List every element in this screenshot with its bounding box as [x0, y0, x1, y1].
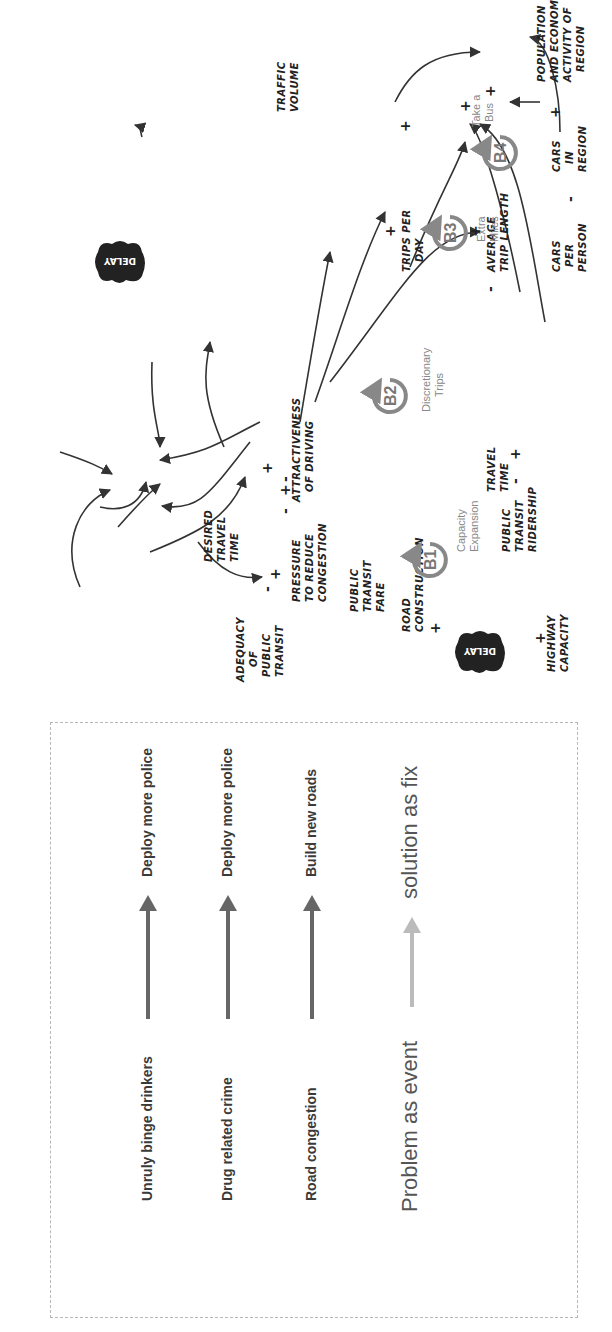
svg-text:B3: B3 — [442, 222, 459, 243]
svg-text:TRIP LENGTH: TRIP LENGTH — [499, 193, 510, 272]
svg-text:REGION: REGION — [577, 126, 588, 172]
svg-text:PRESSURE: PRESSURE — [291, 539, 302, 602]
svg-text:B1: B1 — [422, 549, 439, 570]
svg-text:-: - — [277, 508, 293, 514]
svg-text:DESIRED: DESIRED — [203, 510, 214, 562]
svg-text:RIDERSHIP: RIDERSHIP — [527, 486, 538, 552]
arrow-icon — [146, 895, 150, 1019]
svg-text:CONGESTION: CONGESTION — [317, 523, 328, 602]
svg-text:+: + — [467, 225, 483, 237]
svg-text:+: + — [457, 100, 473, 112]
light-arrow-icon — [410, 917, 414, 1007]
svg-text:FARE: FARE — [375, 582, 386, 612]
svg-text:PUBLIC: PUBLIC — [261, 633, 272, 677]
svg-text:+: + — [267, 568, 283, 580]
delay-cloud-2: DELAY — [95, 241, 145, 283]
svg-text:OF DRIVING: OF DRIVING — [304, 420, 315, 492]
svg-text:+: + — [482, 85, 498, 97]
node-traffic-volume: TRAFFIC VOLUME — [276, 61, 300, 112]
svg-text:TRAVEL: TRAVEL — [216, 516, 227, 562]
svg-text:+: + — [277, 484, 293, 496]
svg-text:PERSON: PERSON — [577, 223, 588, 272]
svg-text:-: - — [259, 586, 275, 592]
svg-text:-: - — [562, 196, 578, 202]
svg-text:TRAFFIC: TRAFFIC — [276, 61, 287, 112]
svg-text:ROAD: ROAD — [401, 598, 412, 632]
fix-label: Deploy more police — [139, 748, 155, 877]
svg-text:Trips: Trips — [433, 372, 445, 397]
svg-text:PER: PER — [564, 244, 575, 267]
svg-text:TIME: TIME — [229, 533, 240, 562]
svg-text:PUBLIC: PUBLIC — [501, 508, 512, 552]
arrow-icon — [310, 895, 314, 1019]
svg-text:TRANSIT: TRANSIT — [362, 559, 373, 612]
svg-text:PUBLIC: PUBLIC — [349, 568, 360, 612]
problem-label: Unruly binge drinkers — [139, 1056, 155, 1201]
svg-text:POPULATION: POPULATION — [536, 5, 547, 82]
svg-text:Bus: Bus — [483, 103, 495, 122]
svg-text:+: + — [547, 106, 563, 118]
solution-as-fix-label: solution as fix — [397, 766, 423, 899]
svg-text:TRIPS PER: TRIPS PER — [401, 209, 412, 272]
svg-text:DELAY: DELAY — [104, 256, 136, 266]
svg-text:Capacity: Capacity — [455, 509, 467, 552]
node-population-economic-activity: POPULATION AND ECONOMIC ACTIVITY OF REGI… — [536, 0, 586, 83]
node-attractiveness-of-driving: ATTRACTIVENESS OF DRIVING — [291, 398, 315, 504]
svg-text:Discretionary: Discretionary — [420, 347, 432, 412]
loop-b4: B4 Take a Bus — [470, 94, 516, 169]
svg-text:CARS: CARS — [551, 240, 562, 272]
svg-text:Miles: Miles — [488, 216, 500, 242]
legend-box: Unruly binge drinkers Deploy more police… — [50, 722, 578, 1318]
svg-text:AND ECONOMIC: AND ECONOMIC — [549, 0, 560, 83]
loop-b2: B2 Discretionary Trips — [374, 347, 445, 412]
svg-text:+: + — [382, 225, 398, 237]
svg-text:OF: OF — [248, 651, 259, 667]
svg-text:TRANSIT: TRANSIT — [514, 499, 525, 552]
svg-text:+: + — [427, 622, 443, 634]
node-adequacy-of-public-transit: ADEQUACY OF PUBLIC TRANSIT — [235, 616, 285, 683]
svg-text:B2: B2 — [382, 385, 399, 406]
svg-text:CAPACITY: CAPACITY — [559, 613, 570, 672]
svg-text:DELAY: DELAY — [464, 646, 496, 656]
svg-text:+: + — [507, 448, 523, 460]
node-public-transit-fare: PUBLIC TRANSIT FARE — [349, 559, 386, 612]
node-public-transit-ridership: PUBLIC TRANSIT RIDERSHIP — [501, 486, 538, 552]
svg-text:ADEQUACY: ADEQUACY — [235, 616, 246, 683]
svg-text:ACTIVITY OF: ACTIVITY OF — [562, 7, 573, 83]
problem-label: Road congestion — [303, 1087, 319, 1201]
node-pressure-to-reduce-congestion: PRESSURE TO REDUCE CONGESTION — [291, 523, 328, 602]
svg-text:TRAVEL: TRAVEL — [486, 446, 497, 492]
svg-text:DAY: DAY — [414, 237, 425, 262]
svg-text:Expansion: Expansion — [468, 501, 480, 552]
arrow-icon — [226, 895, 230, 1019]
causal-loop-diagram: DELAY DELAY HIGHWAY CAPACITY ROAD CONSTR… — [0, 0, 612, 692]
problem-as-event-label: Problem as event — [397, 1041, 423, 1212]
node-cars-per-person: CARS PER PERSON — [551, 223, 588, 272]
rotated-page: Unruly binge drinkers Deploy more police… — [0, 0, 612, 1332]
node-desired-travel-time: DESIRED TRAVEL TIME — [203, 510, 240, 562]
svg-text:REGION: REGION — [575, 26, 586, 72]
svg-text:CARS: CARS — [551, 140, 562, 172]
svg-text:-: - — [507, 478, 523, 484]
delay-cloud-1: DELAY — [455, 631, 505, 673]
svg-text:TO REDUCE: TO REDUCE — [304, 534, 315, 602]
fix-label: Build new roads — [303, 769, 319, 877]
problem-label: Drug related crime — [219, 1077, 235, 1201]
svg-text:TRANSIT: TRANSIT — [274, 624, 285, 677]
svg-text:B4: B4 — [492, 142, 509, 163]
node-cars-in-region: CARS IN REGION — [551, 126, 588, 172]
svg-text:-: - — [482, 286, 498, 292]
svg-text:+: + — [397, 120, 413, 132]
svg-text:VOLUME: VOLUME — [289, 62, 300, 112]
node-highway-capacity: HIGHWAY CAPACITY — [546, 613, 570, 672]
svg-text:+: + — [532, 632, 548, 644]
svg-text:+: + — [259, 462, 275, 474]
svg-text:IN: IN — [564, 151, 575, 164]
svg-text:-: - — [277, 476, 293, 482]
fix-label: Deploy more police — [219, 748, 235, 877]
